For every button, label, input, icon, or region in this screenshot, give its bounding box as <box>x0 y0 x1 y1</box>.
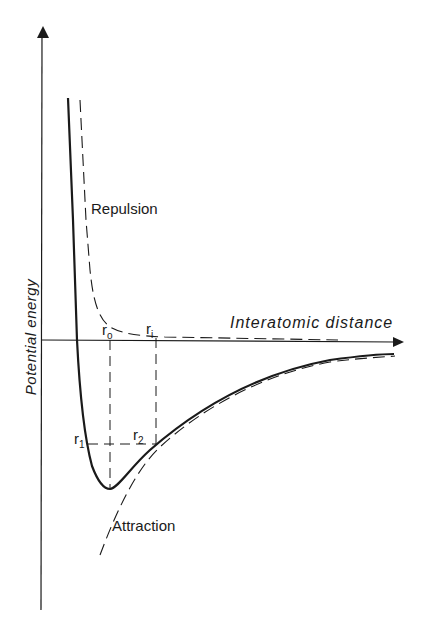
y-axis <box>37 26 49 610</box>
r2-label-sub: 2 <box>138 435 144 446</box>
r2-label: r2 <box>133 426 144 443</box>
r1-label: r1 <box>74 430 85 447</box>
ri-label-sub: i <box>151 329 153 340</box>
y-axis-arrow-icon <box>37 26 49 38</box>
ri-label: ri <box>146 320 153 337</box>
r0-label-sub: o <box>107 330 113 341</box>
r0-label: ro <box>102 321 113 338</box>
resultant-potential-curve <box>68 98 394 489</box>
repulsion-curve <box>80 100 338 340</box>
x-axis-label: Interatomic distance <box>230 314 393 332</box>
r1-label-sub: 1 <box>79 439 85 450</box>
x-axis-arrow-icon <box>393 337 404 347</box>
y-axis-label: Potential energy <box>22 279 39 395</box>
repulsion-label: Repulsion <box>91 200 158 217</box>
attraction-label: Attraction <box>112 517 175 534</box>
